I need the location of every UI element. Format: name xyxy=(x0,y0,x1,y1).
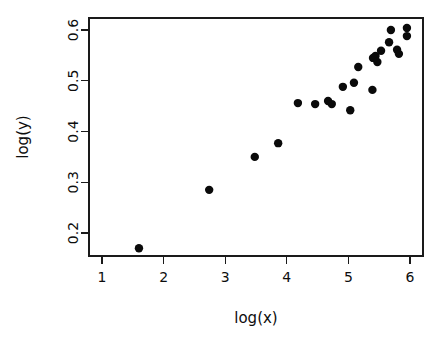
x-axis-title: log(x) xyxy=(234,309,277,327)
data-point xyxy=(135,244,143,252)
y-tick-label: 0.6 xyxy=(65,19,81,41)
data-point xyxy=(373,58,381,66)
data-points-layer xyxy=(135,24,411,253)
x-tick-label: 1 xyxy=(98,269,107,285)
data-point xyxy=(205,186,213,194)
x-tick-label: 2 xyxy=(159,269,168,285)
data-point xyxy=(251,153,259,161)
x-tick-label: 6 xyxy=(406,269,415,285)
plot-canvas: 123456 0.20.30.40.50.6 log(x) log(y) xyxy=(0,0,445,348)
data-point xyxy=(395,50,403,58)
data-point xyxy=(387,26,395,34)
y-tick-label: 0.4 xyxy=(65,120,81,142)
y-axis-ticks: 0.20.30.40.50.6 xyxy=(65,19,89,244)
data-point xyxy=(377,47,385,55)
data-point xyxy=(294,99,302,107)
data-point xyxy=(311,100,319,108)
data-point xyxy=(403,32,411,40)
data-point xyxy=(368,86,376,94)
data-point xyxy=(354,63,362,71)
data-point xyxy=(346,106,354,114)
data-point xyxy=(385,38,393,46)
y-axis-title: log(y) xyxy=(14,115,32,158)
data-point xyxy=(350,79,358,87)
data-point xyxy=(339,83,347,91)
y-tick-label: 0.3 xyxy=(65,171,81,193)
y-tick-label: 0.5 xyxy=(65,70,81,92)
scatter-plot-figure: 123456 0.20.30.40.50.6 log(x) log(y) xyxy=(0,0,445,348)
x-tick-label: 4 xyxy=(282,269,291,285)
data-point xyxy=(403,24,411,32)
x-axis-ticks: 123456 xyxy=(98,256,415,285)
data-point xyxy=(328,100,336,108)
x-tick-label: 5 xyxy=(344,269,353,285)
data-point xyxy=(274,139,282,147)
y-tick-label: 0.2 xyxy=(65,222,81,244)
x-tick-label: 3 xyxy=(221,269,230,285)
